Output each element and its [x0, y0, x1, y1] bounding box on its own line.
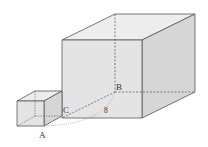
label-c: C — [63, 105, 69, 115]
label-length-8: 8 — [104, 106, 108, 115]
label-b: B — [116, 82, 122, 92]
large-cube-front-face — [62, 40, 142, 118]
cube-diagram: A B C 8 — [0, 0, 208, 147]
small-cube — [17, 91, 62, 126]
small-cube-front-face — [17, 101, 44, 126]
label-a: A — [39, 130, 46, 140]
large-cube — [62, 14, 195, 118]
